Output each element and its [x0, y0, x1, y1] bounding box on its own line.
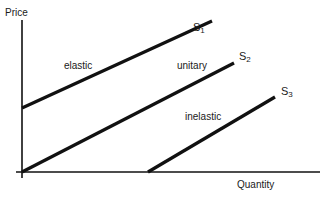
- s2-label: S2: [239, 51, 251, 64]
- x-axis-label: Quantity: [237, 180, 274, 190]
- supply-elasticity-diagram: Price Quantity S1 S2 S3 elastic unitary …: [0, 0, 328, 200]
- elastic-label: elastic: [64, 61, 92, 71]
- inelastic-label: inelastic: [185, 112, 221, 122]
- unitary-label: unitary: [177, 61, 207, 71]
- s1-label: S1: [193, 22, 205, 35]
- s3-label: S3: [281, 86, 293, 99]
- supply-curve-s3: [148, 97, 275, 172]
- diagram-svg: [0, 0, 328, 200]
- y-axis-label: Price: [5, 8, 28, 18]
